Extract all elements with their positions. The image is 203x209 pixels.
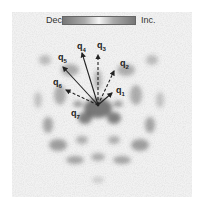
intensity-map (0, 0, 203, 209)
colorbar-max-label: Inc. (141, 15, 156, 25)
vector-label-q4: q4 (77, 42, 86, 55)
colorbar (62, 16, 136, 25)
vector-label-q6: q6 (53, 78, 62, 91)
vector-label-q2: q2 (120, 59, 129, 72)
vector-label-q3: q3 (97, 41, 106, 54)
vector-label-q1: q1 (116, 86, 125, 99)
vector-label-q7: q7 (71, 109, 80, 122)
vector-label-q5: q5 (58, 53, 67, 66)
origin-point (97, 104, 100, 107)
